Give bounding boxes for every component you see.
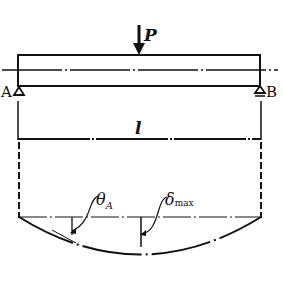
span-label: l bbox=[135, 118, 142, 138]
load-label: P bbox=[143, 25, 158, 45]
max-deflection-marker bbox=[140, 197, 167, 247]
beam bbox=[2, 55, 278, 86]
projection-lines bbox=[19, 142, 261, 218]
support-b-label: B bbox=[266, 83, 277, 101]
support-a-pin-icon bbox=[14, 87, 24, 95]
deflection-curve bbox=[19, 217, 261, 255]
slope-marker bbox=[70, 196, 98, 235]
support-b-roller-icon bbox=[255, 86, 265, 96]
beam-diagram: P A B l θA δma bbox=[0, 0, 283, 281]
slope-label: θA bbox=[96, 190, 113, 211]
max-deflection-label: δmax bbox=[165, 190, 194, 209]
support-a-label: A bbox=[0, 83, 12, 101]
